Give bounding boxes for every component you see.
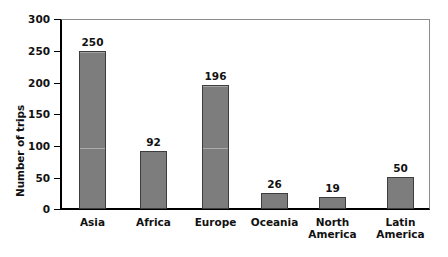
y-tick-label-0: 0	[10, 204, 50, 215]
y-tick-mark-250	[54, 51, 61, 52]
y-tick-mark-300	[54, 19, 61, 20]
y-tick-label-250: 250	[10, 46, 50, 57]
plot-area	[60, 19, 430, 210]
x-axis-label-north-america: North America	[298, 216, 368, 240]
x-axis-label-latin-america: Latin America	[366, 216, 436, 240]
bar-value-latin-america: 50	[381, 163, 421, 174]
y-tick-mark-50	[54, 178, 61, 179]
bar-oceania	[261, 193, 288, 209]
y-tick-mark-200	[54, 83, 61, 84]
y-tick-label-150: 150	[10, 109, 50, 120]
y-tick-label-100: 100	[10, 141, 50, 152]
bar-scanline-artifact	[203, 148, 228, 149]
y-tick-mark-100	[54, 146, 61, 147]
y-tick-mark-0	[54, 209, 61, 210]
y-axis-title: Number of trips	[14, 107, 26, 197]
bar-asia	[79, 51, 106, 209]
bar-europe	[202, 85, 229, 209]
x-axis-label-asia: Asia	[58, 216, 128, 228]
bar-value-europe: 196	[196, 71, 236, 82]
bar-chart: Number of trips 300 250 200 150 100 50 0…	[0, 0, 448, 257]
y-tick-label-50: 50	[10, 173, 50, 184]
y-tick-label-200: 200	[10, 78, 50, 89]
bar-africa	[140, 151, 167, 209]
bar-value-north-america: 19	[313, 183, 353, 194]
x-axis-label-africa: Africa	[119, 216, 189, 228]
bar-value-asia: 250	[73, 37, 113, 48]
y-tick-mark-150	[54, 114, 61, 115]
y-tick-label-300: 300	[10, 14, 50, 25]
bar-value-oceania: 26	[255, 179, 295, 190]
bar-scanline-artifact	[80, 148, 105, 149]
bar-value-africa: 92	[134, 137, 174, 148]
bar-north-america	[319, 197, 346, 209]
bar-latin-america	[387, 177, 414, 209]
